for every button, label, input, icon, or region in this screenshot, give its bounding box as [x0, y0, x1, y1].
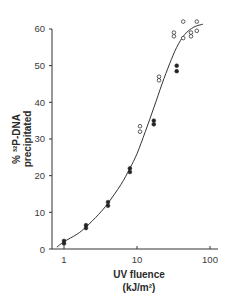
x-axis-title: UV fluence — [113, 269, 165, 280]
filled-data-point — [152, 122, 156, 126]
x-tick-label: 10 — [132, 254, 143, 265]
y-axis-title-line2: precipitated — [22, 111, 33, 168]
open-data-point — [138, 130, 142, 134]
x-tick-label: 100 — [202, 254, 218, 265]
open-data-point — [181, 20, 185, 24]
filled-data-point — [152, 119, 156, 123]
open-data-point — [195, 29, 199, 33]
y-axis-title-line1: % ³²P-DNA — [11, 114, 22, 164]
y-tick-label: 10 — [34, 207, 45, 218]
y-tick-label: 60 — [34, 23, 45, 34]
y-tick-label: 50 — [34, 60, 45, 71]
filled-data-point — [106, 204, 110, 208]
data-points — [62, 20, 199, 246]
filled-data-point — [62, 239, 66, 243]
filled-data-point — [106, 200, 110, 204]
y-tick-label: 40 — [34, 97, 45, 108]
y-ticks: 0102030405060 — [34, 23, 52, 254]
filled-data-point — [84, 223, 88, 227]
open-data-point — [172, 31, 176, 35]
axes — [52, 29, 218, 249]
open-data-point — [157, 75, 161, 79]
open-data-point — [172, 35, 176, 39]
y-tick-label: 30 — [34, 133, 45, 144]
open-data-point — [138, 124, 142, 128]
open-data-point — [195, 20, 199, 24]
filled-data-point — [128, 166, 132, 170]
x-tick-label: 1 — [61, 254, 66, 265]
filled-data-point — [128, 170, 132, 174]
x-axis-unit: (kJ/m²) — [123, 282, 156, 293]
open-data-point — [189, 31, 193, 35]
fitted-curve — [57, 24, 203, 247]
filled-data-point — [175, 64, 179, 68]
open-data-point — [189, 35, 193, 39]
y-tick-label: 0 — [40, 244, 45, 255]
open-data-point — [157, 79, 161, 83]
open-data-point — [181, 36, 185, 40]
filled-data-point — [175, 69, 179, 73]
chart: 0102030405060 110100 UV fluence (kJ/m²) … — [0, 0, 227, 304]
y-tick-label: 20 — [34, 170, 45, 181]
